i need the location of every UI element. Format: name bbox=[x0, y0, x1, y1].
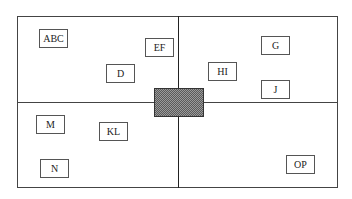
box-label: N bbox=[51, 164, 58, 174]
box-label: ABC bbox=[43, 34, 64, 44]
box-label: J bbox=[274, 85, 278, 95]
box-label: D bbox=[117, 69, 124, 79]
box-abc: ABC bbox=[39, 29, 68, 48]
box-label: M bbox=[46, 120, 55, 130]
box-m: M bbox=[36, 115, 65, 134]
box-kl: KL bbox=[99, 122, 128, 141]
box-ef: EF bbox=[145, 38, 174, 57]
box-g: G bbox=[261, 36, 290, 55]
box-label: EF bbox=[154, 43, 166, 53]
box-j: J bbox=[261, 80, 290, 99]
box-label: G bbox=[272, 41, 279, 51]
box-n: N bbox=[40, 159, 69, 178]
box-label: HI bbox=[217, 67, 228, 77]
box-op: OP bbox=[286, 155, 315, 174]
box-label: OP bbox=[294, 160, 307, 170]
box-label: KL bbox=[107, 127, 120, 137]
box-hi: HI bbox=[208, 62, 237, 81]
center-hatched-block bbox=[154, 88, 204, 117]
box-d: D bbox=[106, 64, 135, 83]
